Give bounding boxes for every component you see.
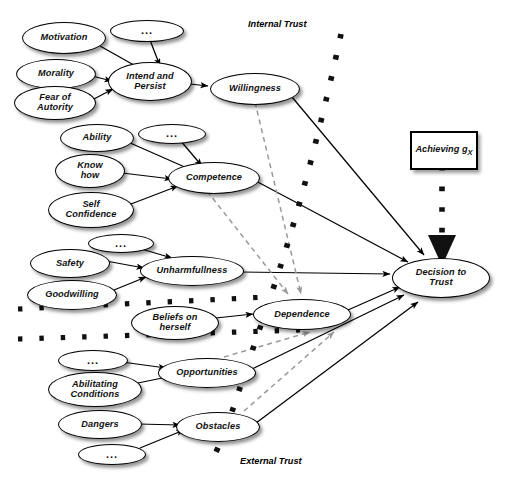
node-unharmfullness[interactable]: Unharmfullness bbox=[140, 256, 244, 286]
node-beliefs-on-herself-label: Beliefs on herself bbox=[150, 313, 201, 332]
node-know-how[interactable]: Know how bbox=[55, 154, 125, 188]
node-achieving-gx-subscript: X bbox=[468, 148, 473, 157]
node-dots-opportunities-label: ... bbox=[84, 355, 102, 367]
node-dependence-label: Dependence bbox=[271, 310, 333, 320]
node-competence-label: Competence bbox=[183, 173, 245, 183]
node-dots-willingness-label: ... bbox=[138, 25, 156, 37]
node-dangers[interactable]: Dangers bbox=[58, 410, 142, 439]
node-abilitating-conditions-label: Abilitating Conditions bbox=[68, 380, 123, 399]
node-achieving-gx-label: Achieving gX bbox=[415, 144, 472, 158]
node-decision-to-trust-label: Decision to Trust bbox=[413, 268, 470, 287]
node-willingness-label: Willingness bbox=[226, 84, 284, 94]
node-fear-of-autority[interactable]: Fear of Autority bbox=[14, 86, 96, 120]
node-dangers-label: Dangers bbox=[78, 420, 121, 430]
node-dots-obstacles[interactable]: ... bbox=[78, 444, 146, 465]
node-intend-and-persist-label: Intend and Persist bbox=[123, 72, 176, 91]
node-dots-unharmfullness-label: ... bbox=[112, 238, 130, 250]
node-goodwilling-label: Goodwilling bbox=[42, 290, 102, 300]
node-achieving-gx-maintext: Achieving g bbox=[415, 144, 467, 154]
node-beliefs-on-herself[interactable]: Beliefs on herself bbox=[131, 306, 219, 340]
node-fear-of-autority-label: Fear of Autority bbox=[34, 93, 76, 112]
node-willingness[interactable]: Willingness bbox=[210, 73, 300, 105]
node-abilitating-conditions[interactable]: Abilitating Conditions bbox=[48, 372, 142, 407]
node-dots-unharmfullness[interactable]: ... bbox=[88, 234, 154, 253]
node-achieving-gx[interactable]: Achieving gX bbox=[410, 131, 478, 170]
node-morality[interactable]: Morality bbox=[16, 59, 96, 89]
node-dots-opportunities[interactable]: ... bbox=[58, 350, 128, 371]
node-safety-label: Safety bbox=[53, 259, 87, 269]
node-dots-obstacles-label: ... bbox=[103, 449, 121, 461]
node-self-confidence-label: Self Confidence bbox=[62, 200, 119, 219]
node-opportunities-label: Opportunities bbox=[173, 368, 241, 378]
node-decision-to-trust[interactable]: Decision to Trust bbox=[392, 258, 490, 298]
node-morality-label: Morality bbox=[35, 69, 77, 79]
node-obstacles[interactable]: Obstacles bbox=[176, 412, 260, 442]
node-safety[interactable]: Safety bbox=[30, 249, 110, 278]
node-self-confidence[interactable]: Self Confidence bbox=[48, 192, 134, 228]
caption-internal-trust: Internal Trust bbox=[248, 19, 307, 29]
diagram-canvas: Motivation ... Morality Fear of Autority… bbox=[0, 0, 508, 486]
node-dots-competence[interactable]: ... bbox=[138, 124, 206, 144]
node-motivation-label: Motivation bbox=[38, 33, 91, 43]
node-dependence[interactable]: Dependence bbox=[253, 299, 351, 330]
caption-external-trust: External Trust bbox=[240, 456, 302, 466]
node-dots-competence-label: ... bbox=[163, 128, 181, 140]
node-intend-and-persist[interactable]: Intend and Persist bbox=[108, 62, 192, 101]
node-ability-label: Ability bbox=[80, 133, 115, 143]
node-dots-willingness[interactable]: ... bbox=[110, 20, 184, 42]
node-ability[interactable]: Ability bbox=[60, 124, 134, 152]
node-know-how-label: Know how bbox=[74, 161, 105, 180]
node-opportunities[interactable]: Opportunities bbox=[158, 358, 256, 388]
node-obstacles-label: Obstacles bbox=[193, 422, 244, 432]
node-unharmfullness-label: Unharmfullness bbox=[154, 266, 231, 276]
node-motivation[interactable]: Motivation bbox=[22, 22, 106, 54]
node-goodwilling[interactable]: Goodwilling bbox=[27, 280, 117, 310]
node-competence[interactable]: Competence bbox=[168, 162, 260, 194]
